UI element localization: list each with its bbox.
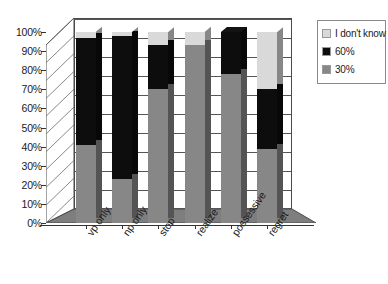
legend-item[interactable]: I don't know xyxy=(322,26,382,41)
x-axis-tick-label: stop xyxy=(156,215,177,238)
x-axis-tick-label: vp only xyxy=(84,204,113,238)
legend-item[interactable]: 60% xyxy=(322,44,382,59)
x-axis-tick-label: np only xyxy=(120,204,149,238)
x-axis-line xyxy=(40,225,314,226)
stacked-bar-chart: 100%90%80%70%60%50%40%30%20%10%0% xyxy=(0,0,388,284)
legend-label: 60% xyxy=(335,46,354,57)
legend-item[interactable]: 30% xyxy=(322,62,382,77)
legend-swatch-icon xyxy=(322,65,331,74)
legend-label: I don't know xyxy=(335,28,386,39)
x-axis-tick-label: realize xyxy=(193,206,220,238)
x-axis-tick-label: regret xyxy=(265,209,290,238)
legend: I don't know 60% 30% xyxy=(317,20,386,84)
x-axis-tick-label: possessive xyxy=(229,189,268,238)
legend-label: 30% xyxy=(335,64,354,75)
legend-swatch-icon xyxy=(322,29,331,38)
legend-swatch-icon xyxy=(322,47,331,56)
